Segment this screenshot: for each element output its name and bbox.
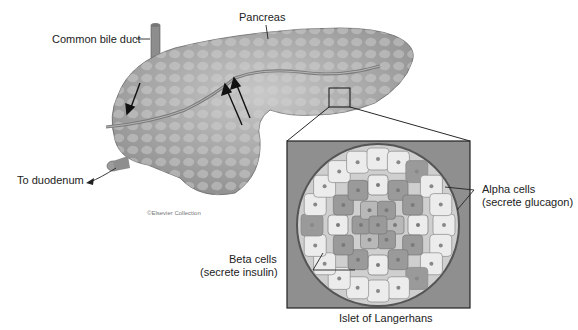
label-alpha-cells-function: (secrete glucagon) <box>482 196 573 209</box>
label-beta-cells: Beta cells <box>229 253 277 266</box>
caption-islet-of-langerhans: Islet of Langerhans <box>339 312 433 325</box>
pancreas-diagram <box>0 0 578 330</box>
copyright-notice: ©Elsevier Collection <box>147 207 201 220</box>
islet-panel <box>287 141 470 308</box>
label-to-duodenum: To duodenum <box>17 174 84 187</box>
label-common-bile-duct: Common bile duct <box>52 33 141 46</box>
label-pancreas: Pancreas <box>239 11 285 24</box>
label-beta-cells-function: (secrete insulin) <box>200 266 278 279</box>
label-alpha-cells: Alpha cells <box>482 183 535 196</box>
